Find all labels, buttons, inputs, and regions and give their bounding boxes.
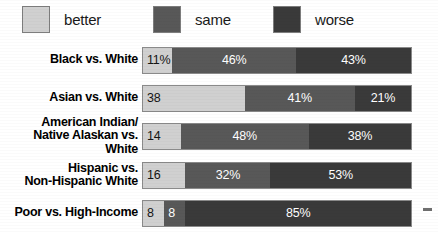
row-label: Hispanic vs. Non-Hispanic White	[0, 162, 142, 189]
legend-swatch-worse	[273, 6, 301, 33]
stacked-bar: 11% 46% 43%	[142, 47, 412, 74]
bar-segment-same: 46%	[172, 48, 295, 73]
row-label: Black vs. White	[0, 53, 142, 67]
row-label: Poor vs. High-Income	[0, 206, 142, 220]
legend-label-same: same	[195, 12, 231, 27]
page-edge-mark	[423, 208, 432, 211]
chart-row: Asian vs. White 38 41% 21%	[0, 84, 438, 112]
chart-row: Hispanic vs. Non-Hispanic White 16 32% 5…	[0, 161, 438, 189]
bar-segment-better: 38	[143, 86, 245, 111]
row-label: American Indian/ Native Alaskan vs. Whit…	[0, 116, 142, 157]
stacked-bar: 16 32% 53%	[142, 162, 412, 189]
chart-row: Black vs. White 11% 46% 43%	[0, 46, 438, 74]
bar-segment-worse: 38%	[309, 124, 411, 149]
bar-segment-worse: 85%	[185, 201, 411, 226]
legend-item-better: better	[22, 4, 101, 34]
stacked-bar: 8 8 85%	[142, 200, 412, 227]
legend-item-same: same	[153, 4, 231, 34]
legend-label-worse: worse	[315, 12, 354, 27]
bar-segment-same: 8	[164, 201, 185, 226]
bar-segment-worse: 53%	[270, 163, 411, 188]
bar-segment-better: 8	[143, 201, 164, 226]
legend-swatch-better	[22, 6, 50, 33]
bar-segment-worse: 43%	[296, 48, 411, 73]
stacked-bar: 14 48% 38%	[142, 123, 412, 150]
chart-row: American Indian/ Native Alaskan vs. Whit…	[0, 122, 438, 150]
legend-label-better: better	[64, 12, 101, 27]
chart-legend: better same worse	[0, 0, 438, 40]
row-label: Asian vs. White	[0, 91, 142, 105]
legend-swatch-same	[153, 6, 181, 33]
chart-plot-area: Black vs. White 11% 46% 43% Asian vs. Wh…	[0, 40, 438, 234]
bar-segment-better: 16	[143, 163, 185, 188]
bar-segment-better: 11%	[143, 48, 172, 73]
bar-segment-same: 41%	[245, 86, 355, 111]
stacked-bar: 38 41% 21%	[142, 85, 412, 112]
bar-segment-same: 48%	[181, 124, 310, 149]
stacked-bar-chart: better same worse Black vs. White 11% 46…	[0, 0, 438, 234]
bar-segment-same: 32%	[185, 163, 270, 188]
legend-item-worse: worse	[273, 4, 354, 34]
chart-row: Poor vs. High-Income 8 8 85%	[0, 199, 438, 227]
bar-segment-worse: 21%	[355, 86, 411, 111]
bar-segment-better: 14	[143, 124, 181, 149]
